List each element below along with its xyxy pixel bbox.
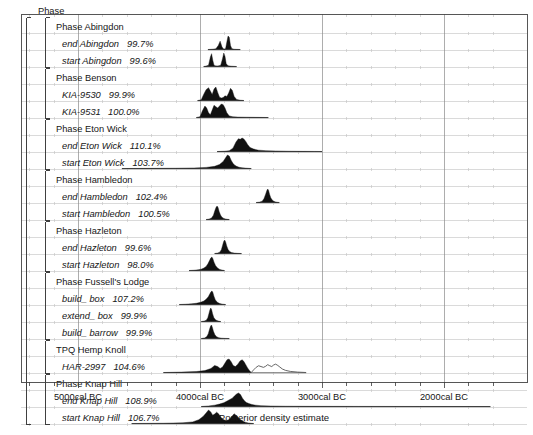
agreement-index-start-hazleton: 98.0% bbox=[127, 260, 153, 270]
row-label-start-hambledon: start Hambledon100.5% bbox=[62, 209, 170, 219]
row-label-start-eton-wick: start Eton Wick103.7% bbox=[62, 158, 164, 168]
density-area bbox=[201, 325, 229, 339]
row-label-start-hazleton: start Hazleton98.0% bbox=[62, 260, 154, 270]
bracket-group-phase-hazleton bbox=[46, 222, 51, 272]
bracket-group-phase-knap-hill bbox=[46, 375, 51, 425]
bracket-group-phase-benson bbox=[46, 69, 51, 119]
density-area bbox=[217, 138, 322, 152]
row-label-build-barrow: build_ barrow99.9% bbox=[62, 328, 152, 338]
row-label-start-knap-hill: start Knap Hill106.7% bbox=[62, 413, 159, 423]
row-label-end-hazleton: end Hazleton99.6% bbox=[62, 243, 151, 253]
density-area bbox=[196, 104, 268, 118]
distribution-build-box bbox=[179, 291, 225, 305]
agreement-index-start-eton-wick: 103.7% bbox=[132, 158, 164, 168]
row-label-har-2997: HAR-2997104.6% bbox=[62, 362, 145, 372]
bracket-group-phase-eton-wick bbox=[46, 120, 51, 170]
row-label-phase-hazleton: Phase Hazleton bbox=[56, 226, 122, 236]
distribution-end-hazleton bbox=[215, 240, 242, 254]
row-label-start-abingdon: start Abingdon99.6% bbox=[62, 56, 156, 66]
distribution-build-barrow bbox=[201, 325, 229, 339]
row-label-phase-benson: Phase Benson bbox=[56, 73, 116, 83]
agreement-index-start-abingdon: 99.6% bbox=[130, 56, 156, 66]
row-label-tpq-hemp-knoll: TPQ Hemp Knoll bbox=[56, 345, 126, 355]
row-label-kia-9531: KIA-9531100.0% bbox=[62, 107, 140, 117]
distribution-kia-9531 bbox=[196, 104, 268, 118]
row-label-extend-box: extend_ box99.9% bbox=[62, 311, 147, 321]
distribution-extend-box bbox=[201, 308, 221, 322]
distribution-end-eton-wick bbox=[217, 138, 322, 152]
agreement-index-end-abingdon: 99.7% bbox=[127, 39, 153, 49]
bracket-root-phase bbox=[27, 18, 32, 425]
agreement-index-har-2997: 104.6% bbox=[113, 362, 145, 372]
axis-tick-label: 4000cal BC bbox=[176, 392, 224, 402]
agreement-index-end-eton-wick: 110.1% bbox=[130, 141, 161, 151]
agreement-index-start-knap-hill: 106.7% bbox=[128, 413, 160, 423]
distribution-har-2997 bbox=[251, 364, 306, 372]
agreement-index-build-barrow: 99.9% bbox=[126, 328, 152, 338]
agreement-index-kia-9531: 100.0% bbox=[108, 107, 140, 117]
row-label-phase-fussells-lodge: Phase Fussell's Lodge bbox=[56, 277, 149, 287]
distribution-har-2997 bbox=[163, 359, 306, 373]
density-area bbox=[256, 189, 279, 203]
distribution-end-hambledon bbox=[256, 189, 279, 203]
agreement-index-end-hazleton: 99.6% bbox=[125, 243, 151, 253]
axis-tick-label: 3000cal BC bbox=[298, 392, 346, 402]
distribution-layer bbox=[122, 36, 490, 424]
agreement-index-end-knap-hill: 108.9% bbox=[125, 396, 157, 406]
row-label-phase-abingdon: Phase Abingdon bbox=[56, 22, 124, 32]
agreement-index-start-hambledon: 100.5% bbox=[138, 209, 170, 219]
posterior-density-chart: PhasePhase Abingdonend Abingdon99.7%star… bbox=[0, 0, 533, 435]
row-label-end-hambledon: end Hambledon102.4% bbox=[62, 192, 167, 202]
bracket-group-phase-fussells-lodge bbox=[46, 273, 51, 340]
density-outline bbox=[251, 364, 306, 372]
density-area bbox=[189, 257, 224, 271]
agreement-index-extend-box: 99.9% bbox=[121, 311, 147, 321]
row-label-phase-hambledon: Phase Hambledon bbox=[56, 175, 133, 185]
bracket-layer bbox=[27, 18, 51, 425]
density-area bbox=[204, 53, 237, 67]
density-area bbox=[179, 291, 225, 305]
bracket-group-phase-abingdon bbox=[46, 18, 51, 68]
bracket-group-phase-hambledon bbox=[46, 171, 51, 221]
agreement-index-kia-9530: 99.9% bbox=[109, 90, 135, 100]
distribution-start-hazleton bbox=[189, 257, 224, 271]
density-area bbox=[163, 359, 251, 373]
agreement-index-build-box: 107.2% bbox=[112, 294, 144, 304]
row-label-build-box: build_ box107.2% bbox=[62, 294, 144, 304]
row-label-end-abingdon: end Abingdon99.7% bbox=[62, 39, 153, 49]
distribution-start-abingdon bbox=[204, 53, 237, 67]
axis-tick-label: 2000cal BC bbox=[420, 392, 468, 402]
density-area bbox=[215, 240, 242, 254]
distribution-end-abingdon bbox=[208, 36, 240, 50]
bracket-group-tpq-hemp-knoll bbox=[46, 341, 51, 374]
row-label-phase-knap-hill: Phase Knap Hill bbox=[56, 379, 122, 389]
density-area bbox=[206, 206, 229, 220]
agreement-index-end-hambledon: 102.4% bbox=[136, 192, 168, 202]
row-label-kia-9530: KIA-953099.9% bbox=[62, 90, 135, 100]
density-area bbox=[198, 87, 244, 101]
axis-title: Posterior density estimate bbox=[219, 412, 329, 423]
row-label-end-eton-wick: end Eton Wick110.1% bbox=[62, 141, 161, 151]
chart-canvas: PhasePhase Abingdonend Abingdon99.7%star… bbox=[0, 0, 533, 435]
row-label-phase-eton-wick: Phase Eton Wick bbox=[56, 124, 127, 134]
density-area bbox=[208, 36, 240, 50]
distribution-start-hambledon bbox=[206, 206, 229, 220]
axis-tick-label: 5000cal BC bbox=[54, 392, 102, 402]
distribution-kia-9530 bbox=[198, 87, 244, 101]
row-label-layer: PhasePhase Abingdonend Abingdon99.7%star… bbox=[38, 6, 170, 423]
density-area bbox=[201, 308, 221, 322]
